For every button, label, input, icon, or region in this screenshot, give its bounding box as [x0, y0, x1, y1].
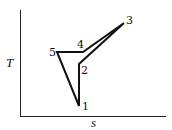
y-axis-label: T	[6, 55, 14, 70]
cycle-path	[57, 23, 124, 106]
state-label-3: 3	[126, 14, 133, 27]
state-label-5: 5	[49, 46, 56, 59]
state-label-4: 4	[77, 38, 84, 51]
x-axis-label: s	[91, 115, 96, 130]
state-label-2: 2	[81, 64, 88, 77]
ts-diagram: 1 2 3 4 5 T s	[0, 0, 172, 130]
state-label-1: 1	[82, 100, 89, 113]
